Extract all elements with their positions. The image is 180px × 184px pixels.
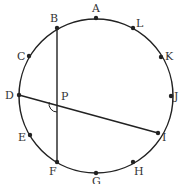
label-L: L	[136, 17, 144, 30]
label-I: I	[162, 131, 166, 144]
label-J: J	[173, 90, 178, 103]
label-D: D	[5, 89, 14, 102]
label-B: B	[50, 12, 58, 25]
chords	[19, 28, 158, 162]
point-D	[17, 93, 21, 97]
point-J	[169, 94, 173, 98]
label-E: E	[18, 131, 26, 144]
label-H: H	[134, 165, 144, 178]
label-F: F	[49, 165, 57, 178]
circle	[19, 19, 173, 173]
chord-DI	[19, 95, 158, 133]
point-L	[131, 26, 135, 30]
point-C	[27, 54, 31, 58]
label-G: G	[92, 175, 101, 184]
point-H	[131, 160, 135, 164]
circle-diagram: ALKJIHGFEDCBP	[0, 0, 180, 184]
point-I	[156, 131, 160, 135]
labels: ALKJIHGFEDCBP	[5, 2, 178, 184]
point-A	[94, 16, 98, 20]
label-P: P	[61, 90, 69, 103]
point-K	[159, 55, 163, 59]
point-B	[55, 26, 59, 30]
label-A: A	[91, 2, 101, 15]
label-C: C	[17, 50, 25, 63]
label-K: K	[165, 50, 174, 63]
point-E	[28, 133, 32, 137]
point-F	[55, 160, 59, 164]
